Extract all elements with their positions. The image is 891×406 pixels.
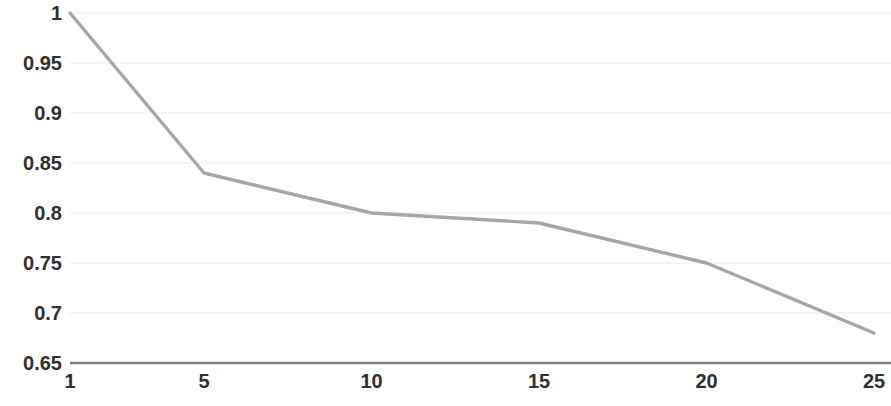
x-axis: 1510152025: [0, 0, 891, 406]
x-axis-tick-label: 5: [164, 371, 244, 391]
x-axis-tick-label: 10: [332, 371, 412, 391]
x-axis-tick-label: 1: [30, 371, 110, 391]
x-axis-tick-label: 25: [834, 371, 891, 391]
x-axis-tick-label: 15: [499, 371, 579, 391]
x-axis-tick-label: 20: [667, 371, 747, 391]
line-chart: 10.950.90.850.80.750.70.65 1510152025: [0, 0, 891, 406]
